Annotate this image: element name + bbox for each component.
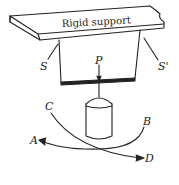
label-a: A	[29, 134, 38, 147]
label-s-prime: S'	[158, 60, 169, 73]
label-c: C	[45, 100, 54, 113]
pendulum-bob	[86, 98, 112, 139]
label-b: B	[142, 115, 151, 128]
label-s: S	[40, 60, 48, 73]
label-d: D	[144, 152, 154, 165]
s-prime-pointer	[144, 38, 158, 60]
s-pointer	[48, 44, 58, 59]
curve-c-to-d	[51, 113, 144, 161]
torsion-pendulum-diagram: Rigid support S S' P A B C D	[0, 0, 179, 185]
p-arrow	[97, 65, 101, 81]
label-p: P	[94, 54, 103, 67]
